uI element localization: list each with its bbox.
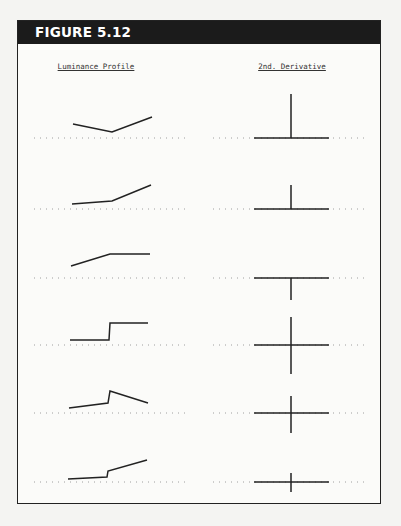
figure-frame: FIGURE 5.12 Luminance Profile 2nd. Deriv… bbox=[17, 20, 381, 504]
profile-row-1 bbox=[73, 117, 152, 132]
profile-row-3 bbox=[71, 254, 150, 266]
profile-row-2 bbox=[72, 185, 151, 204]
profile-row-4 bbox=[70, 323, 148, 340]
profiles-diagram bbox=[18, 21, 382, 505]
baseline-dots bbox=[34, 138, 368, 482]
profile-row-5 bbox=[69, 391, 148, 408]
profile-row-6 bbox=[68, 460, 147, 479]
